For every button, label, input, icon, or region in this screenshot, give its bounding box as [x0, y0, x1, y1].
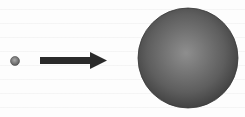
diagram-canvas — [0, 0, 245, 117]
large-sphere — [138, 8, 238, 108]
arrow-shaft — [40, 57, 92, 64]
arrowhead — [90, 52, 107, 69]
small-circle — [11, 57, 20, 66]
diagram-svg — [0, 0, 245, 117]
transition-arrow — [40, 52, 107, 69]
